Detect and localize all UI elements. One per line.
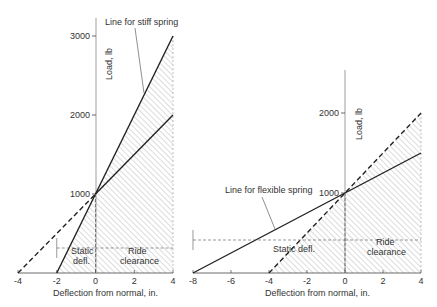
right-x-axis-label: Deflection from normal, in. [265, 288, 370, 298]
x-tick-label: 4 [170, 276, 175, 286]
flexible-spring-leader [262, 197, 275, 229]
left-x-axis-label: Deflection from normal, in. [53, 288, 158, 298]
left-y-axis-label: Load, lb [104, 48, 114, 80]
y-tick-label: 2000 [319, 108, 339, 118]
y-tick-label: 2000 [70, 110, 90, 120]
stiff-spring-chart: -4-2024100020003000 [14, 18, 176, 286]
spring-load-diagram: -4-2024100020003000 -8-6-4-202410002000 … [0, 0, 437, 307]
x-tick-label: -8 [189, 276, 197, 286]
x-tick-label: -2 [303, 276, 311, 286]
right-ride-clearance-label-2: clearance [367, 247, 406, 257]
left-static-defl-label-2: defl. [73, 256, 90, 266]
x-tick-label: 2 [132, 276, 137, 286]
x-tick-label: 2 [380, 276, 385, 286]
left-ride-clearance-label-2: clearance [120, 256, 159, 266]
x-tick-label: 4 [418, 276, 423, 286]
stiff-spring-leader [135, 28, 144, 93]
right-static-defl-label: Static defl. [273, 244, 315, 254]
y-tick-label: 3000 [70, 31, 90, 41]
stiff-spring-label: Line for stiff spring [105, 17, 178, 27]
x-tick-label: 0 [342, 276, 347, 286]
flexible-spring-label: Line for flexible spring [225, 185, 313, 195]
left-ride-clearance-label-1: Ride [128, 246, 147, 256]
y-tick-label: 1000 [319, 188, 339, 198]
left-static-defl-label-1: Static [71, 246, 94, 256]
x-tick-label: -4 [265, 276, 273, 286]
x-tick-label: 0 [93, 276, 98, 286]
right-y-axis-label: Load, lb [354, 108, 364, 140]
x-tick-label: -6 [227, 276, 235, 286]
right-ride-clearance-label-1: Ride [376, 237, 395, 247]
x-tick-label: -4 [14, 276, 22, 286]
x-tick-label: -2 [53, 276, 61, 286]
y-tick-label: 1000 [70, 189, 90, 199]
